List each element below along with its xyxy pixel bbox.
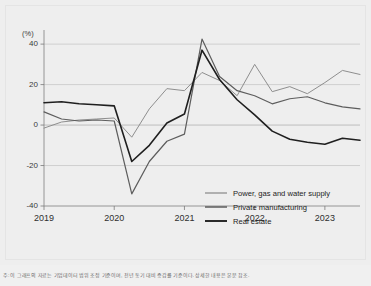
legend-item-label: Real estate bbox=[233, 217, 271, 226]
legend-item-label: Power, gas and water supply bbox=[233, 189, 330, 198]
x-axis-tick-label: 2021 bbox=[164, 213, 204, 223]
axis-ticks bbox=[41, 44, 325, 210]
x-axis-tick-label: 2023 bbox=[305, 213, 345, 223]
y-axis-tick-label: -20 bbox=[14, 162, 38, 170]
chart-footnote: 주: 이 그래프의 자료는 기업데이터 범위 조정 기준이며, 전년 동기 대비… bbox=[3, 272, 371, 278]
y-axis-tick-label: -40 bbox=[14, 202, 38, 210]
x-axis-tick-label: 2019 bbox=[24, 213, 64, 223]
axis-lines bbox=[44, 30, 360, 206]
chart-figure: (%) 40200-20-40 20192020202120222023 Pow… bbox=[0, 0, 371, 265]
y-axis-tick-label: 0 bbox=[14, 121, 38, 129]
x-axis-tick-label: 2020 bbox=[94, 213, 134, 223]
series-lines bbox=[44, 39, 360, 194]
y-axis-tick-label: 40 bbox=[14, 40, 38, 48]
legend-item-label: Private manufacturing bbox=[233, 203, 307, 212]
legend-swatches bbox=[205, 193, 227, 221]
chart-plot-area bbox=[0, 0, 371, 265]
y-axis-tick-label: 20 bbox=[14, 81, 38, 89]
